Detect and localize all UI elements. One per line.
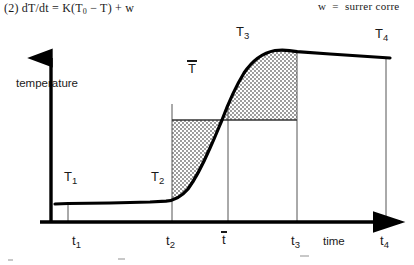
label-t2-sub: 2 xyxy=(170,239,175,250)
label-t1: t1 xyxy=(72,234,81,250)
label-tbar-base: t xyxy=(222,233,226,246)
label-T2-sub: 2 xyxy=(159,175,164,186)
label-T2: T2 xyxy=(151,170,164,186)
label-T1-base: T xyxy=(64,169,72,184)
label-T3-sub: 3 xyxy=(244,30,249,41)
label-mean-temperature: T xyxy=(188,62,196,75)
scan-artifact xyxy=(118,258,125,260)
label-T2-base: T xyxy=(151,169,159,184)
label-Tbar-base: T xyxy=(188,62,196,75)
label-T4-sub: 4 xyxy=(383,32,388,43)
label-t3-sub: 3 xyxy=(295,239,300,250)
label-T1: T1 xyxy=(64,170,77,186)
scan-artifact xyxy=(8,259,13,261)
temperature-curve xyxy=(55,50,390,204)
label-t4-sub: 4 xyxy=(384,239,389,250)
shaded-area-upper-right xyxy=(222,50,297,120)
label-t2: t2 xyxy=(166,234,175,250)
scan-artifact xyxy=(300,255,309,257)
figure-canvas: (2) dT/dt = K(T0 − T) + w w = surrer cor… xyxy=(0,0,414,265)
label-t4: t4 xyxy=(380,234,389,250)
plot-area xyxy=(0,0,414,265)
label-T3-base: T xyxy=(236,24,244,39)
label-T3: T3 xyxy=(236,25,249,41)
shaded-area-lower-left xyxy=(172,120,228,201)
label-t1-sub: 1 xyxy=(76,239,81,250)
label-T1-sub: 1 xyxy=(72,175,77,186)
label-mean-time: t xyxy=(222,233,226,246)
label-T4-base: T xyxy=(375,26,383,41)
label-T4: T4 xyxy=(375,27,388,43)
label-t3: t3 xyxy=(291,234,300,250)
x-axis-label: time xyxy=(323,236,345,248)
